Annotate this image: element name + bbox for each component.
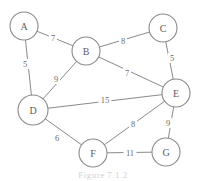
edge-weight-label-a-b: 7 bbox=[51, 33, 55, 43]
edge-weight-label-f-g: 11 bbox=[126, 148, 134, 158]
edge-weight-label-d-f: 6 bbox=[55, 133, 59, 143]
edge-weight-label-b-d: 9 bbox=[54, 74, 58, 84]
edge-weight-label-b-c: 8 bbox=[121, 36, 125, 46]
edge-weight-label-d-e: 15 bbox=[101, 95, 110, 105]
graph-node-f[interactable]: F bbox=[79, 139, 107, 167]
edge-weight-label-b-e: 7 bbox=[125, 68, 129, 78]
nodes-layer: ABCDEFG bbox=[10, 12, 190, 167]
graph-canvas: 7589751568911 ABCDEFG bbox=[0, 0, 206, 181]
graph-node-b[interactable]: B bbox=[72, 37, 100, 65]
node-label-c: C bbox=[160, 23, 167, 34]
edge-weight-label-c-e: 5 bbox=[170, 53, 174, 63]
node-label-e: E bbox=[173, 88, 179, 99]
graph-node-c[interactable]: C bbox=[149, 14, 177, 42]
node-label-a: A bbox=[20, 21, 28, 32]
node-label-g: G bbox=[162, 147, 169, 158]
node-label-b: B bbox=[83, 46, 90, 57]
node-label-f: F bbox=[90, 148, 96, 159]
graph-edge-d-f bbox=[45, 119, 81, 145]
graph-node-e[interactable]: E bbox=[162, 79, 190, 107]
node-label-d: D bbox=[29, 105, 36, 116]
edge-weight-label-a-d: 5 bbox=[23, 59, 27, 69]
weighted-graph-figure: 7589751568911 ABCDEFG Figure 7.1.2 bbox=[0, 0, 206, 181]
figure-caption: Figure 7.1.2 bbox=[0, 170, 206, 180]
edge-weight-label-e-f: 8 bbox=[131, 119, 135, 129]
edge-weight-label-e-g: 9 bbox=[166, 118, 170, 128]
graph-node-g[interactable]: G bbox=[152, 138, 180, 166]
graph-node-a[interactable]: A bbox=[10, 12, 38, 40]
graph-node-d[interactable]: D bbox=[18, 95, 48, 125]
